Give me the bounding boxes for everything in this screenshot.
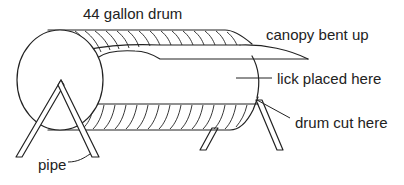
lick-label: lick placed here [277,71,381,86]
drum-end-cap [17,30,103,130]
pipe-label: pipe [38,157,66,172]
cut-label: drum cut here [295,115,388,130]
drum-top-ribs [75,31,237,54]
canopy-label: canopy bent up [266,27,369,42]
drum-bottom-ribs [82,105,247,129]
lick-feeder-diagram: 44 gallon drum canopy bent up lick place… [0,0,404,185]
drum-label: 44 gallon drum [83,6,182,21]
